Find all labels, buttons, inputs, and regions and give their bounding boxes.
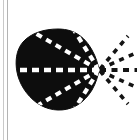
outer-ray-dn-shallow: [100, 71, 136, 87]
scan-artifact-line-inner: [7, 0, 8, 140]
scan-artifact-line-outer: [3, 0, 4, 140]
outer-ray-up-shallow: [100, 53, 136, 69]
figure-canvas: Radial dashed-line diagram over solid bl…: [0, 0, 138, 140]
blob-diagram-svg: [0, 0, 138, 140]
outer-dashed-rays: [100, 36, 137, 104]
